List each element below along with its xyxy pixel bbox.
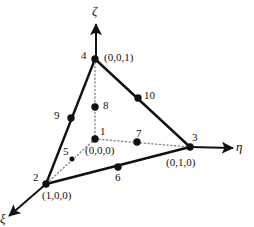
axis-label-eta: η — [236, 140, 242, 153]
node-label-10: 10 — [144, 90, 155, 101]
node-coordinate-3: (0,1,0) — [166, 157, 195, 168]
axis-label-zeta: ζ — [92, 4, 97, 17]
node-label-4: 4 — [81, 50, 87, 61]
node-label-7: 7 — [136, 128, 142, 139]
node-marker-1 — [91, 135, 98, 142]
node-marker-6 — [114, 163, 121, 170]
node-label-5: 5 — [63, 146, 69, 157]
axis-arrow-eta — [190, 147, 233, 148]
node-marker-4 — [91, 55, 98, 62]
node-label-6: 6 — [115, 172, 121, 183]
figure-canvas — [0, 0, 254, 227]
edge-4-3 — [95, 59, 190, 147]
node-marker-9 — [67, 114, 74, 121]
node-label-1: 1 — [100, 126, 106, 137]
node-label-9: 9 — [54, 110, 60, 121]
node-label-3: 3 — [192, 132, 198, 143]
node-marker-10 — [134, 94, 141, 101]
node-label-8: 8 — [103, 100, 109, 111]
node-coordinate-1: (0,0,0) — [85, 145, 114, 156]
node-marker-2 — [42, 180, 49, 187]
node-marker-8 — [91, 103, 98, 110]
node-label-2: 2 — [33, 172, 39, 183]
node-coordinate-4: (0,0,1) — [104, 52, 133, 63]
axis-label-xi: ξ — [0, 212, 6, 225]
node-coordinate-2: (1,0,0) — [42, 190, 71, 201]
node-marker-7 — [133, 138, 140, 145]
node-marker-5 — [69, 156, 75, 162]
tetrahedral-element-figure: ζηξ1(0,0,0)2(1,0,0)3(0,1,0)4(0,0,1)56789… — [0, 0, 254, 227]
node-marker-3 — [186, 143, 193, 150]
axis-arrow-xi — [9, 184, 46, 216]
